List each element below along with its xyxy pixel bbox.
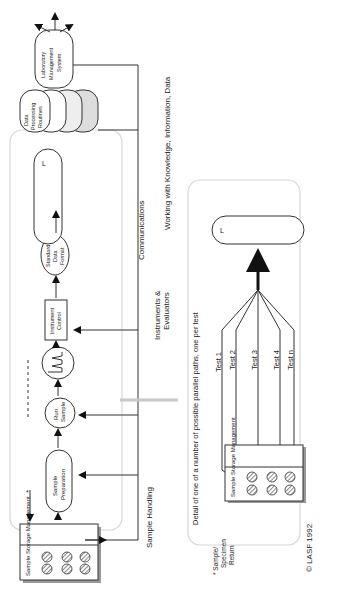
label-sample-handling: Sample Handling xyxy=(145,487,154,548)
svg-text:Run: Run xyxy=(53,409,59,420)
svg-text:* Sample/: * Sample/ xyxy=(212,547,220,575)
copyright: © LASF 1992 xyxy=(305,523,314,572)
instrument-control-node: Instrument Control xyxy=(45,300,67,340)
data-processing-node: Data Processing Routines xyxy=(20,90,98,132)
svg-text:Data: Data xyxy=(52,249,58,262)
librarian-node: L xyxy=(21,149,115,244)
svg-text:Test 4: Test 4 xyxy=(272,350,281,370)
svg-text:Sample: Sample xyxy=(60,401,66,422)
svg-text:Sample: Sample xyxy=(52,475,58,496)
svg-text:Detail of one of a number of p: Detail of one of a number of possible pa… xyxy=(191,311,200,525)
svg-text:Control: Control xyxy=(56,312,62,330)
svg-text:Sample Storage Management: Sample Storage Management xyxy=(230,417,236,497)
label-working-with: Working with Knowledge, Information, Dat… xyxy=(163,76,172,230)
svg-text:Standard: Standard xyxy=(45,245,51,267)
svg-text:Preparation: Preparation xyxy=(60,469,66,500)
svg-text:Specimen: Specimen xyxy=(220,539,228,568)
svg-text:Return: Return xyxy=(228,545,235,565)
svg-text:L: L xyxy=(42,160,46,167)
svg-text:Evaluators: Evaluators xyxy=(162,292,171,330)
svg-text:Processing: Processing xyxy=(30,103,36,130)
svg-text:Instruments &: Instruments & xyxy=(153,290,162,340)
svg-text:Test 3: Test 3 xyxy=(250,350,259,370)
svg-text:Instrument: Instrument xyxy=(49,308,55,334)
svg-text:Data: Data xyxy=(23,113,29,126)
label-communications: Communications xyxy=(137,200,146,260)
svg-text:Test n: Test n xyxy=(286,350,295,370)
svg-text:Management: Management xyxy=(48,47,54,80)
lims-node: Laboratory Management System xyxy=(35,30,73,88)
svg-text:Routines: Routines xyxy=(37,106,43,128)
svg-text:Laboratory: Laboratory xyxy=(40,51,46,78)
svg-text:Test 1: Test 1 xyxy=(214,352,223,372)
svg-text:System: System xyxy=(56,53,62,72)
lower-panel: Detail of one of a number of possible pa… xyxy=(188,180,306,545)
svg-text:Format: Format xyxy=(59,247,65,265)
sample-preparation-node: Sample Preparation xyxy=(46,450,72,512)
diagram-canvas: Sample Storage Management Sample Prepara… xyxy=(0,0,354,589)
chromatogram-icon xyxy=(42,347,74,379)
run-sample-node: Run Sample xyxy=(45,398,75,428)
svg-text:*: * xyxy=(26,489,29,496)
svg-text:Test 2: Test 2 xyxy=(228,350,237,370)
svg-text:L: L xyxy=(220,227,224,234)
